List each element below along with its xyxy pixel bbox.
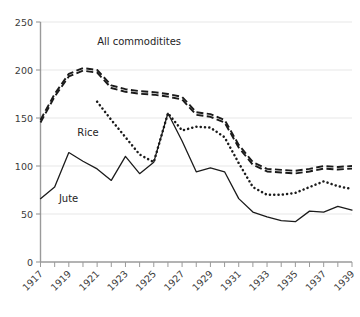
line-chart: 050100150200250 191719191921192319251927… xyxy=(0,0,360,317)
y-tick-label: 250 xyxy=(15,17,33,28)
y-tick-label: 100 xyxy=(15,161,33,172)
series-label-rice: Rice xyxy=(77,127,98,138)
y-tick-label: 150 xyxy=(15,113,33,124)
y-tick-label: 0 xyxy=(27,257,33,268)
series-label-jute: Jute xyxy=(58,193,78,204)
series-label-all-commoditites: All commoditites xyxy=(97,36,181,47)
chart-container: 050100150200250 191719191921192319251927… xyxy=(0,0,360,317)
y-tick-label: 50 xyxy=(21,209,33,220)
y-tick-label: 200 xyxy=(15,65,33,76)
